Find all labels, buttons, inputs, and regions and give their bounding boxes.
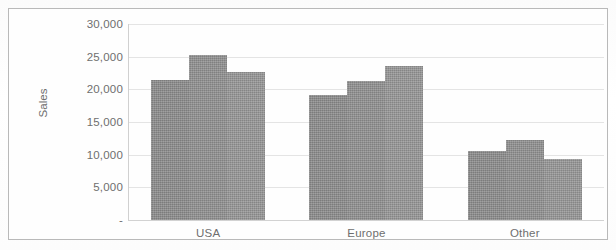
y-tick-label-25000: 25,000 <box>49 51 123 63</box>
category-label-europe: Europe <box>287 227 445 239</box>
y-tick-label-30000: 30,000 <box>49 18 123 30</box>
y-tick-label-10000: 10,000 <box>49 149 123 161</box>
chart-frame: Sales 30,00025,00020,00015,00010,0005,00… <box>8 8 608 240</box>
category-label-usa: USA <box>129 227 287 239</box>
y-tick-label-15000: 15,000 <box>49 116 123 128</box>
y-tick-label-0: - <box>49 214 123 226</box>
y-axis-tick-labels: 30,00025,00020,00015,00010,0005,000- <box>45 24 123 220</box>
y-tick-label-5000: 5,000 <box>49 181 123 193</box>
category-axis: USAEuropeOther <box>129 9 604 240</box>
category-label-other: Other <box>446 227 604 239</box>
y-tick-label-20000: 20,000 <box>49 83 123 95</box>
